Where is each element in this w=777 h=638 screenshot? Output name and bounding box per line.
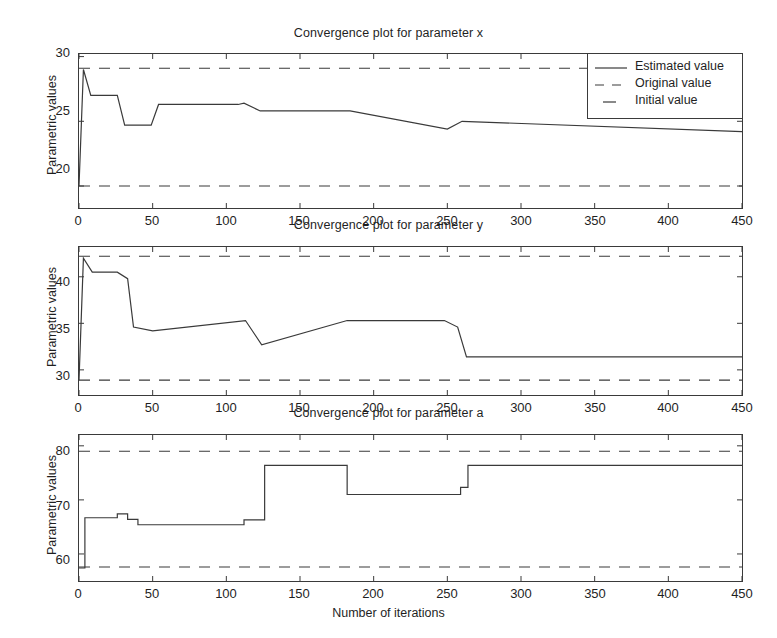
panel-2-ytick-30: 30 — [30, 368, 70, 383]
panel-3-xtick-100: 100 — [208, 586, 244, 601]
panel-3-xtick-250: 250 — [429, 586, 465, 601]
solid-line-icon — [594, 60, 628, 72]
panel-1-ytick-25: 25 — [30, 103, 70, 118]
dashed-line-icon — [594, 77, 628, 89]
panel-2-ytick-35: 35 — [30, 321, 70, 336]
panel-3-ytick-60: 60 — [30, 552, 70, 567]
panel-2-plot-area — [78, 246, 743, 396]
panel-3-plot-area — [78, 434, 743, 582]
legend-entry-original-value: Original value — [594, 74, 735, 91]
x-axis-label: Number of iterations — [0, 606, 777, 620]
panel-1-title: Convergence plot for parameter x — [0, 26, 777, 40]
panel-1-ytick-20: 20 — [30, 161, 70, 176]
convergence-figure: Convergence plot for parameter x Paramet… — [0, 0, 777, 638]
panel-3-plot-svg — [79, 435, 742, 581]
panel-3-title: Convergence plot for parameter a — [0, 406, 777, 420]
panel-3-ytick-80: 80 — [30, 443, 70, 458]
panel-1-y-axis-label: Parametric values — [45, 50, 59, 200]
legend: Estimated value Original value Initial v… — [587, 53, 743, 119]
legend-entry-estimated-value: Estimated value — [594, 57, 735, 74]
panel-2-ytick-40: 40 — [30, 274, 70, 289]
panel-3-xtick-150: 150 — [281, 586, 317, 601]
panel-3-xtick-450: 450 — [724, 586, 760, 601]
panel-3-ytick-70: 70 — [30, 498, 70, 513]
panel-3-xtick-300: 300 — [503, 586, 539, 601]
panel-3-xtick-200: 200 — [355, 586, 391, 601]
legend-label-initial-value: Initial value — [635, 93, 698, 107]
panel-2-title: Convergence plot for parameter y — [0, 218, 777, 232]
legend-label-estimated-value: Estimated value — [635, 59, 724, 73]
panel-1-ytick-30: 30 — [30, 45, 70, 60]
dash-line-icon — [594, 94, 628, 106]
panel-3-xtick-400: 400 — [650, 586, 686, 601]
panel-3-xtick-0: 0 — [60, 586, 96, 601]
legend-entry-initial-value: Initial value — [594, 91, 735, 108]
panel-3-xtick-350: 350 — [577, 586, 613, 601]
panel-2-plot-svg — [79, 247, 742, 395]
panel-3-xtick-50: 50 — [134, 586, 170, 601]
legend-label-original-value: Original value — [635, 76, 711, 90]
